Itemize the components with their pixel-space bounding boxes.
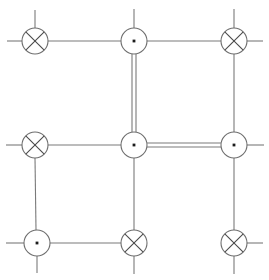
top-center-node[interactable] — [121, 28, 147, 54]
lattice-diagram — [0, 0, 269, 280]
bottom-right-node[interactable] — [221, 230, 247, 256]
middle-right-dot-icon — [233, 144, 236, 147]
middle-left-to-bottom-left-line — [35, 158, 36, 230]
middle-center-dot-icon — [133, 144, 136, 147]
middle-center-node[interactable] — [121, 132, 147, 158]
top-center-to-middle-center-edge — [132, 54, 136, 132]
diagram-canvas — [0, 0, 269, 280]
top-right-node[interactable] — [221, 28, 247, 54]
top-left-node[interactable] — [22, 28, 48, 54]
middle-center-to-middle-right-edge — [147, 143, 221, 147]
top-center-dot-icon — [133, 40, 136, 43]
bottom-left-node[interactable] — [24, 230, 50, 256]
bottom-center-node[interactable] — [121, 230, 147, 256]
middle-right-node[interactable] — [221, 132, 247, 158]
middle-left-to-bottom-left-edge — [35, 158, 36, 230]
bottom-left-dot-icon — [36, 242, 39, 245]
middle-left-node[interactable] — [22, 132, 48, 158]
